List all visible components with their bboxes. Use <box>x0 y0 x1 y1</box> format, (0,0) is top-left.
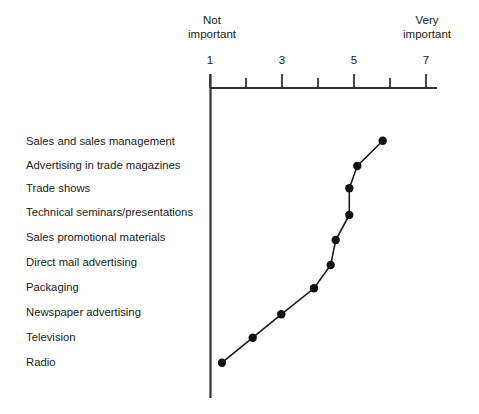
series-markers <box>218 137 387 367</box>
data-point-marker <box>379 137 387 145</box>
data-point-marker <box>327 261 335 269</box>
data-point-marker <box>218 359 226 367</box>
chart-figure: Not important Very important 1 3 5 7 Sal… <box>0 0 479 414</box>
data-point-marker <box>249 334 257 342</box>
data-point-marker <box>310 284 318 292</box>
series-line <box>222 141 383 363</box>
data-point-marker <box>345 184 353 192</box>
x-axis-ticks <box>210 74 426 88</box>
data-point-marker <box>332 236 340 244</box>
data-point-marker <box>277 310 285 318</box>
data-point-marker <box>345 211 353 219</box>
plot-area <box>0 0 479 414</box>
data-point-marker <box>353 162 361 170</box>
